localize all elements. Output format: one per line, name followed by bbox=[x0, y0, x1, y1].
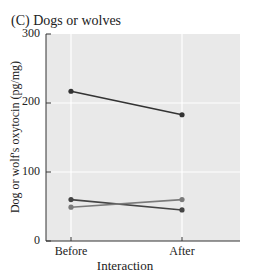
x-tick-after: After bbox=[152, 244, 212, 259]
data-point bbox=[68, 89, 73, 94]
data-point bbox=[179, 197, 184, 202]
plot-background bbox=[46, 34, 240, 241]
x-tick-before: Before bbox=[41, 244, 101, 259]
data-point bbox=[68, 205, 73, 210]
data-point bbox=[179, 207, 184, 212]
data-point bbox=[68, 197, 73, 202]
x-axis-label: Interaction bbox=[65, 258, 185, 274]
y-tick-0: 0 bbox=[10, 233, 40, 248]
y-axis-label: Dog or wolf's oxytocin (pg/mg) bbox=[8, 61, 23, 213]
y-tick-300: 300 bbox=[10, 26, 40, 41]
data-point bbox=[179, 112, 184, 117]
